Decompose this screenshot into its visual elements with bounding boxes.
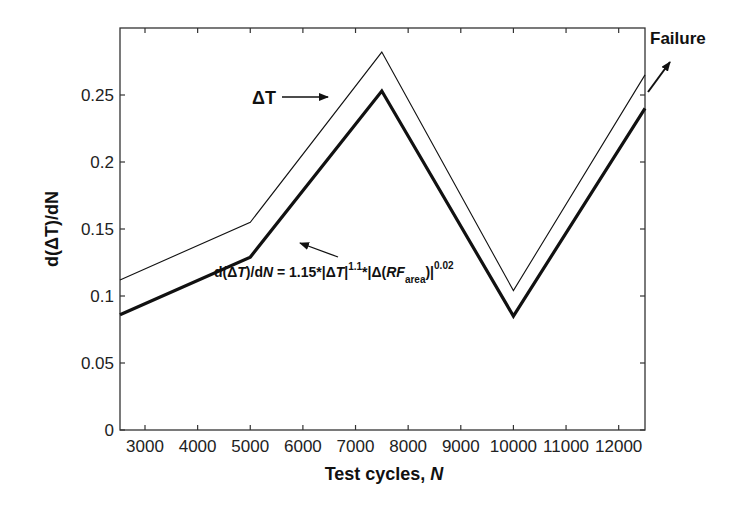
x-tick-label: 9000 [442,437,480,456]
x-tick-label: 12000 [595,437,642,456]
formula-arrow-icon [300,243,338,257]
failure-arrow-icon [648,62,670,92]
x-tick-label: 4000 [179,437,217,456]
plot-frame [120,28,645,430]
x-tick-label: 6000 [284,437,322,456]
line-chart: 3000400050006000700080009000100001100012… [0,0,752,506]
y-tick-label: 0.2 [90,153,114,172]
y-tick-label: 0.1 [90,287,114,306]
x-tick-label: 10000 [490,437,537,456]
x-tick-label: 8000 [389,437,427,456]
x-tick-label: 11000 [543,437,589,456]
failure-label: Failure [650,29,706,48]
y-axis-title: d(ΔT)/dN [42,191,62,267]
formula-label: d(ΔT)/dN = 1.15*|ΔT|1.1*|Δ(RFarea)|0.02 [214,260,454,285]
y-axis-ticks: 00.050.10.150.20.25 [81,86,645,440]
y-tick-label: 0.25 [81,86,114,105]
y-tick-label: 0.05 [81,354,114,373]
y-tick-label: 0.15 [81,220,114,239]
y-tick-label: 0 [105,421,114,440]
x-tick-label: 5000 [231,437,269,456]
delta-t-label: ΔT [252,88,276,108]
x-axis-title: Test cycles, N [325,464,445,484]
x-tick-label: 7000 [337,437,375,456]
plot-border [120,28,645,430]
series-line-delta-t [120,52,645,291]
x-tick-label: 3000 [126,437,164,456]
